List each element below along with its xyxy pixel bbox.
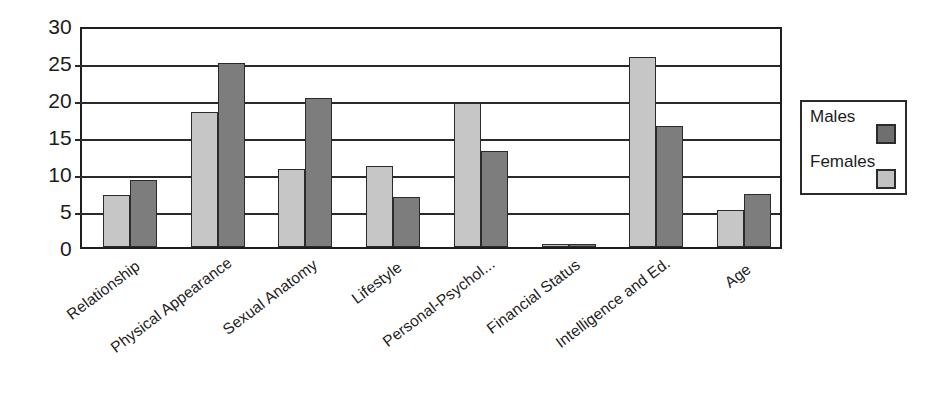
bar-chart: 051015202530 RelationshipPhysical Appear… <box>0 0 947 417</box>
x-axis-label: Lifestyle <box>349 259 405 307</box>
x-axis-category-labels: RelationshipPhysical AppearanceSexual An… <box>0 0 947 417</box>
legend-label: Females <box>810 153 875 171</box>
legend-swatch-light <box>876 169 896 189</box>
legend-item: Females <box>802 151 905 195</box>
legend-label: Males <box>810 108 855 126</box>
x-axis-label: Relationship <box>64 258 143 323</box>
legend-item: Males <box>802 106 905 150</box>
legend-swatch-dark <box>876 124 896 144</box>
x-axis-label: Age <box>722 261 754 291</box>
chart-legend: MalesFemales <box>800 100 907 195</box>
x-axis-label: Sexual Anatomy <box>220 256 320 337</box>
